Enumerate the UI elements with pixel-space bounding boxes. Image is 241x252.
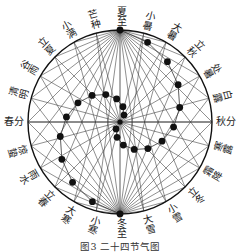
term-label: 小雪	[164, 202, 184, 226]
term-label: 芒种	[85, 7, 101, 31]
term-label: 大暑	[164, 18, 184, 42]
term-label: 立春	[34, 186, 57, 209]
term-label: 雨水	[17, 166, 40, 186]
term-label: 惊蛰	[6, 142, 30, 158]
term-label: 寒露	[211, 140, 235, 156]
term-dot	[120, 103, 127, 110]
term-label: 小寒	[85, 214, 101, 237]
chord-to-winter-solstice	[96, 33, 120, 214]
term-label: 小满	[58, 18, 78, 42]
term-dot	[75, 99, 82, 106]
term-dot	[120, 142, 127, 149]
solar-terms-diagram: 夏至小暑大暑立秋处暑白露秋分寒露霜降立冬小雪大雪冬至小寒大寒立春雨水惊蛰春分清明…	[0, 0, 241, 252]
term-label: 冬至	[116, 217, 127, 238]
chord-to-summer-solstice	[120, 30, 144, 211]
term-dot	[170, 124, 177, 131]
term-dot	[164, 58, 171, 65]
radial-line	[96, 33, 120, 122]
chord-to-summer-solstice	[120, 30, 185, 187]
term-dot	[89, 92, 96, 99]
term-dot	[113, 96, 120, 103]
term-dot	[131, 146, 138, 153]
term-dot	[117, 211, 124, 218]
term-label: 立秋	[184, 36, 207, 59]
term-dot	[176, 104, 183, 111]
term-dot	[102, 91, 109, 98]
center-point	[117, 119, 122, 124]
term-label: 立冬	[184, 185, 207, 208]
term-dot	[114, 134, 121, 141]
term-label: 清明	[6, 85, 30, 101]
term-label: 白露	[211, 87, 235, 103]
chord-to-winter-solstice	[120, 33, 144, 214]
term-label: 处暑	[201, 60, 224, 80]
term-label: 夏至	[116, 6, 127, 26]
term-dot	[121, 112, 128, 119]
term-dot	[175, 81, 182, 88]
term-dot	[69, 179, 76, 186]
radial-line	[120, 98, 209, 122]
term-label: 谷雨	[17, 58, 41, 78]
term-label: 大雪	[140, 212, 156, 236]
term-dot	[58, 156, 65, 163]
term-dot	[144, 145, 151, 152]
term-label: 春分	[4, 116, 24, 127]
term-label: 霜降	[201, 164, 225, 184]
term-label: 大寒	[58, 202, 79, 227]
radial-line	[120, 122, 144, 211]
chord-to-winter-solstice	[120, 57, 185, 214]
radial-line	[31, 122, 120, 146]
term-dot	[117, 27, 124, 34]
term-dot	[159, 138, 166, 145]
term-label: 秋分	[216, 115, 236, 127]
term-dot	[144, 39, 151, 46]
chord-to-summer-solstice	[96, 30, 120, 211]
chord-to-winter-solstice	[55, 57, 120, 214]
radial-line	[40, 76, 120, 122]
chord-to-summer-solstice	[55, 30, 120, 187]
term-label: 立夏	[34, 35, 57, 58]
term-label: 小暑	[140, 9, 156, 31]
radial-line	[120, 122, 200, 168]
term-dot	[113, 126, 120, 133]
term-dot	[63, 113, 70, 120]
figure-caption: 图3 二十四节气图	[80, 241, 159, 252]
term-dot	[57, 133, 64, 140]
term-dot	[89, 198, 96, 205]
